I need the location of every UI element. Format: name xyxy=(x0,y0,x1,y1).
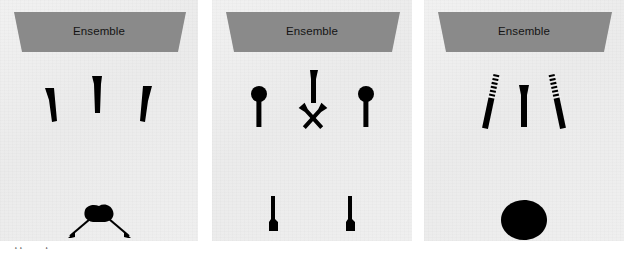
pin-marker-right-icon xyxy=(358,86,374,127)
tapered-marker-right-icon xyxy=(140,86,152,122)
glyph-layer-1 xyxy=(0,0,198,241)
tapered-marker-left-icon xyxy=(45,88,57,122)
panel-2-glyphs xyxy=(212,0,412,241)
threaded-marker-left-icon xyxy=(481,74,501,130)
glyph-layer-2 xyxy=(212,0,412,241)
panel-3-glyphs xyxy=(424,0,624,241)
figure-root: Ensemble xyxy=(0,0,624,259)
inverted-marker-bottom-left-icon xyxy=(269,196,278,231)
inverted-marker-bottom-right-icon xyxy=(346,196,355,231)
cross-marker-center-icon xyxy=(299,103,328,131)
panel-ensemble-2: Ensemble xyxy=(212,0,412,241)
tapered-marker-top-center-icon xyxy=(310,70,318,103)
glyph-layer-3 xyxy=(424,0,624,241)
caption-strip: cropped caption line xyxy=(0,247,624,259)
caption-text: cropped caption line xyxy=(2,247,84,249)
threaded-marker-right-icon xyxy=(548,74,568,130)
panel-ensemble-3: Ensemble xyxy=(424,0,624,241)
panel-1-glyphs xyxy=(0,0,198,241)
panel-ensemble-1: Ensemble xyxy=(0,0,198,241)
filled-circle-bottom-icon xyxy=(501,200,547,240)
blob-with-diverging-arrows-icon xyxy=(68,205,131,238)
pin-marker-left-icon xyxy=(251,86,267,127)
tapered-marker-center-icon xyxy=(92,76,102,113)
tapered-marker-center-icon xyxy=(519,85,529,127)
